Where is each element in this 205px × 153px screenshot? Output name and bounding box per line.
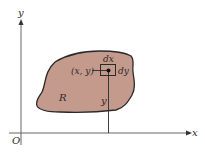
y-axis-arrow-icon bbox=[19, 19, 24, 25]
y-axis-label: y bbox=[17, 7, 24, 18]
point-dot bbox=[107, 69, 111, 73]
height-label: y bbox=[100, 95, 107, 106]
dx-label: dx bbox=[103, 54, 114, 64]
dy-label: dy bbox=[118, 66, 130, 76]
diagram-canvas: y x O R y dx dy (x, y) bbox=[0, 0, 205, 153]
x-axis-label: x bbox=[192, 127, 198, 138]
origin-label: O bbox=[12, 135, 20, 146]
region-label: R bbox=[58, 92, 67, 103]
diagram-svg: y x O R y dx dy (x, y) bbox=[0, 0, 205, 153]
region-r bbox=[37, 51, 135, 112]
point-label: (x, y) bbox=[71, 66, 94, 76]
